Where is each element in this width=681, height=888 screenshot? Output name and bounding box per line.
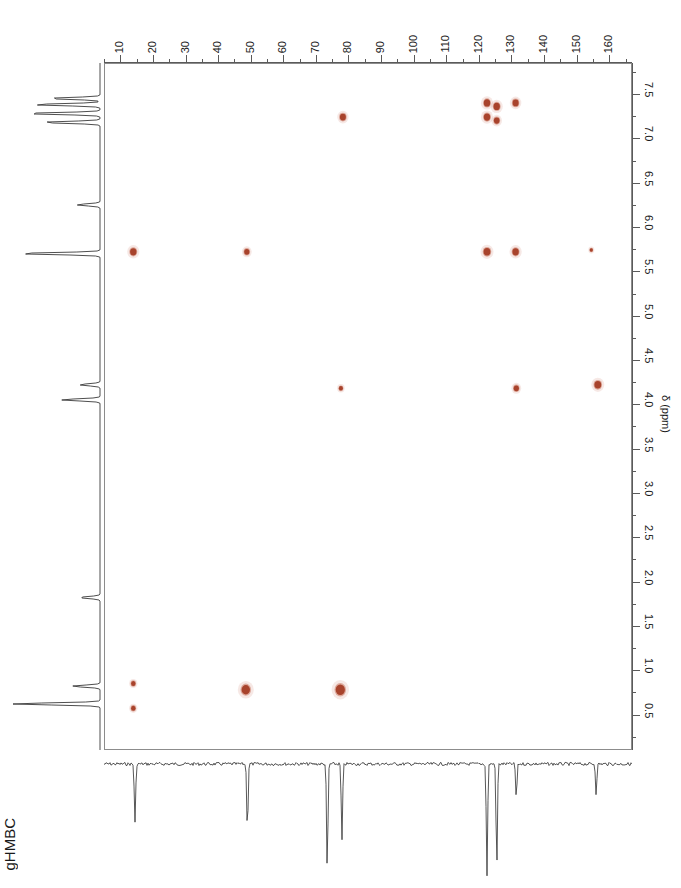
proton-tick bbox=[632, 72, 636, 73]
carbon-tick bbox=[544, 55, 545, 63]
proton-tick bbox=[632, 715, 640, 716]
proton-tick-label: 7.0 bbox=[643, 126, 654, 141]
carbon-tick bbox=[316, 55, 317, 63]
carbon-tick-label: 90 bbox=[375, 41, 386, 53]
carbon-tick bbox=[186, 55, 187, 63]
carbon-tick bbox=[153, 55, 154, 63]
proton-tick bbox=[632, 626, 640, 627]
proton-tick-label: 0.5 bbox=[643, 703, 654, 718]
carbon-tick-label: 40 bbox=[212, 41, 223, 53]
proton-tick bbox=[632, 471, 636, 472]
top-title bbox=[335, 0, 455, 12]
carbon-tick-label: 20 bbox=[147, 41, 158, 53]
carbon-tick-label: 110 bbox=[440, 35, 451, 53]
proton-tick bbox=[632, 737, 636, 738]
proton-tick-label: 1.5 bbox=[643, 614, 654, 629]
carbon-axis-line bbox=[104, 62, 632, 63]
carbon-tick bbox=[626, 59, 627, 63]
carbon-tick bbox=[234, 59, 235, 63]
proton-tick bbox=[632, 94, 640, 95]
proton-tick bbox=[632, 648, 636, 649]
spectrum-plot-area[interactable] bbox=[104, 63, 632, 750]
carbon-tick-label: 130 bbox=[505, 35, 516, 53]
proton-tick bbox=[632, 426, 636, 427]
proton-tick-label: 5.0 bbox=[643, 304, 654, 319]
proton-tick bbox=[632, 493, 640, 494]
carbon-tick bbox=[332, 59, 333, 63]
proton-tick-label: 3.0 bbox=[643, 481, 654, 496]
carbon-tick-label: 30 bbox=[180, 41, 191, 53]
carbon-tick bbox=[283, 55, 284, 63]
carbon-tick bbox=[511, 55, 512, 63]
proton-projection-trace bbox=[0, 63, 104, 750]
carbon-tick-label: 50 bbox=[245, 41, 256, 53]
proton-axis-title: δ (ppm) bbox=[660, 395, 671, 433]
carbon-tick bbox=[348, 55, 349, 63]
proton-trace-path bbox=[13, 63, 100, 750]
carbon-tick bbox=[495, 59, 496, 63]
proton-axis: 0.51.01.52.02.53.03.54.04.55.05.56.06.57… bbox=[632, 63, 648, 750]
carbon-tick bbox=[560, 59, 561, 63]
carbon-tick-label: 60 bbox=[277, 41, 288, 53]
carbon-tick bbox=[381, 55, 382, 63]
proton-tick-label: 2.0 bbox=[643, 570, 654, 585]
proton-tick bbox=[632, 604, 636, 605]
proton-tick-label: 6.5 bbox=[643, 171, 654, 186]
carbon-tick bbox=[577, 55, 578, 63]
proton-tick bbox=[632, 404, 640, 405]
carbon-tick-label: 10 bbox=[114, 41, 125, 53]
carbon-tick bbox=[414, 55, 415, 63]
carbon-projection-trace bbox=[104, 756, 632, 884]
carbon-tick bbox=[202, 59, 203, 63]
carbon-axis: 102030405060708090100110120130140150160 bbox=[104, 47, 632, 63]
proton-tick bbox=[632, 338, 636, 339]
carbon-tick bbox=[528, 59, 529, 63]
carbon-tick bbox=[365, 59, 366, 63]
proton-tick-label: 5.5 bbox=[643, 259, 654, 274]
proton-tick bbox=[632, 360, 640, 361]
carbon-tick-label: 70 bbox=[310, 41, 321, 53]
carbon-tick bbox=[430, 59, 431, 63]
carbon-tick-label: 140 bbox=[538, 35, 549, 53]
proton-tick bbox=[632, 161, 636, 162]
carbon-tick bbox=[267, 59, 268, 63]
proton-tick bbox=[632, 271, 640, 272]
proton-tick-label: 2.5 bbox=[643, 525, 654, 540]
carbon-tick bbox=[104, 59, 105, 63]
proton-tick bbox=[632, 116, 636, 117]
proton-tick bbox=[632, 316, 640, 317]
carbon-tick bbox=[609, 55, 610, 63]
proton-axis-line bbox=[632, 63, 633, 750]
proton-tick bbox=[632, 249, 636, 250]
proton-tick bbox=[632, 449, 640, 450]
proton-tick-label: 7.5 bbox=[643, 82, 654, 97]
carbon-tick-label: 160 bbox=[603, 35, 614, 53]
carbon-tick bbox=[593, 59, 594, 63]
proton-tick-label: 6.0 bbox=[643, 215, 654, 230]
experiment-label: gHMBC bbox=[2, 818, 17, 871]
carbon-tick bbox=[169, 59, 170, 63]
proton-tick bbox=[632, 582, 640, 583]
carbon-tick bbox=[251, 55, 252, 63]
proton-tick-label: 3.5 bbox=[643, 437, 654, 452]
carbon-trace-path bbox=[104, 762, 632, 875]
proton-tick bbox=[632, 205, 636, 206]
proton-tick bbox=[632, 138, 640, 139]
carbon-tick-label: 100 bbox=[408, 35, 419, 53]
proton-tick bbox=[632, 537, 640, 538]
proton-tick-label: 1.0 bbox=[643, 658, 654, 673]
proton-tick bbox=[632, 670, 640, 671]
proton-tick bbox=[632, 692, 636, 693]
carbon-tick bbox=[120, 55, 121, 63]
proton-tick bbox=[632, 227, 640, 228]
proton-tick bbox=[632, 294, 636, 295]
carbon-tick bbox=[463, 59, 464, 63]
proton-tick-label: 4.5 bbox=[643, 348, 654, 363]
carbon-tick-label: 80 bbox=[342, 41, 353, 53]
carbon-tick bbox=[137, 59, 138, 63]
proton-tick bbox=[632, 382, 636, 383]
carbon-tick bbox=[479, 55, 480, 63]
proton-tick-label: 4.0 bbox=[643, 392, 654, 407]
proton-tick bbox=[632, 183, 640, 184]
carbon-tick-label: 120 bbox=[473, 35, 484, 53]
